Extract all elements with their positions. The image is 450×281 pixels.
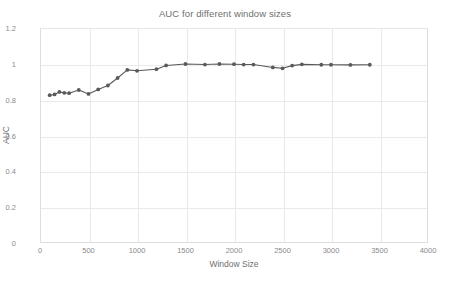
chart-figure: AUC for different window sizes AUC Windo… [0, 0, 450, 281]
x-gridline [235, 29, 236, 242]
y-tick-label: 0.8 [0, 95, 16, 104]
x-axis-title: Window Size [40, 259, 428, 269]
x-gridline [284, 29, 285, 242]
y-gridline [41, 101, 427, 102]
x-gridline [332, 29, 333, 242]
x-tick-label: 0 [20, 246, 60, 255]
x-gridline [138, 29, 139, 242]
x-tick-label: 1000 [117, 246, 157, 255]
x-tick-label: 4000 [408, 246, 448, 255]
y-tick-label: 0.6 [0, 131, 16, 140]
y-gridline [41, 65, 427, 66]
x-tick-label: 2500 [263, 246, 303, 255]
y-tick-label: 0.4 [0, 167, 16, 176]
y-tick-label: 0.2 [0, 203, 16, 212]
y-tick-label: 1 [0, 59, 16, 68]
x-gridline [90, 29, 91, 242]
x-tick-label: 500 [69, 246, 109, 255]
chart-title: AUC for different window sizes [0, 8, 450, 19]
y-tick-label: 0 [0, 239, 16, 248]
x-tick-label: 3000 [311, 246, 351, 255]
x-gridline [187, 29, 188, 242]
x-tick-label: 3500 [360, 246, 400, 255]
x-gridline [381, 29, 382, 242]
y-tick-label: 1.2 [0, 24, 16, 33]
x-tick-label: 2000 [214, 246, 254, 255]
x-tick-label: 1500 [166, 246, 206, 255]
plot-area [40, 28, 428, 243]
y-gridline [41, 137, 427, 138]
y-gridline [41, 208, 427, 209]
y-gridline [41, 172, 427, 173]
